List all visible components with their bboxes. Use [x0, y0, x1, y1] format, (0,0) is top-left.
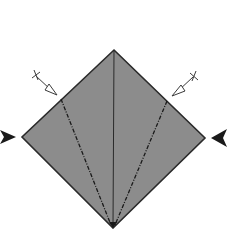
right-push-arrow-icon	[211, 129, 227, 147]
left-push-arrow-icon	[0, 130, 16, 144]
origami-diagram	[0, 0, 238, 229]
right-fold-arrow-icon	[172, 71, 198, 96]
left-fold-arrow-icon	[32, 70, 57, 95]
